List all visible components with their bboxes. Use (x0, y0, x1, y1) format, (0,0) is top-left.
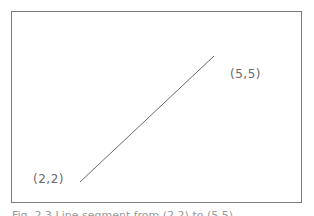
point-label-start: (2,2) (33, 172, 64, 186)
point-label-end: (5,5) (230, 67, 261, 81)
figure-caption: Fig. 2.3 Line segment from (2,2) to (5,5… (12, 209, 304, 216)
